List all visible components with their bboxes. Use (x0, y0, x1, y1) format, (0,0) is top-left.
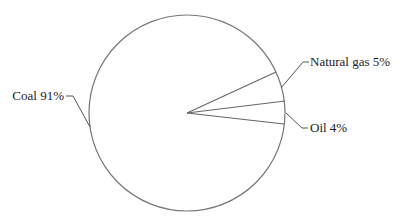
label-natural-gas: Natural gas 5% (310, 54, 390, 69)
slice-natural-gas: Natural gas 5% (281, 54, 390, 88)
leader-line-natural-gas (281, 62, 309, 88)
leader-line-coal (66, 96, 90, 127)
label-oil: Oil 4% (310, 120, 347, 135)
slice-oil: Oil 4% (286, 113, 347, 135)
slice-coal: Coal 91% (12, 88, 90, 127)
leader-line-oil (286, 113, 308, 128)
label-coal: Coal 91% (12, 88, 64, 103)
pie-chart: Natural gas 5% Oil 4% Coal 91% (0, 0, 398, 222)
